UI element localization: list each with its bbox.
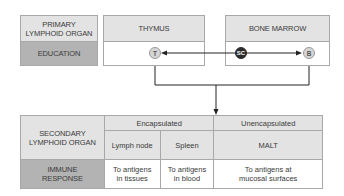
stem-cell-icon: SC: [235, 47, 247, 59]
lymph-node-cell: Lymph node: [104, 131, 160, 160]
response-tissues: To antigens in tissues: [104, 160, 160, 189]
secondary-organ-table: SECONDARY LYMPHOID ORGAN Encapsulated Un…: [20, 115, 323, 189]
encapsulated-header: Encapsulated: [104, 116, 214, 131]
response-blood: To antigens in blood: [160, 160, 214, 189]
malt-cell: MALT: [214, 131, 323, 160]
b-cell-icon: B: [303, 47, 315, 59]
unencapsulated-header: Unencapsulated: [214, 116, 323, 131]
primary-label-block: PRIMARY LYMPHOID ORGAN EDUCATION: [20, 15, 98, 66]
spleen-cell: Spleen: [160, 131, 214, 160]
t-cell-icon: T: [149, 47, 161, 59]
immune-response-label: IMMUNE RESPONSE: [21, 160, 105, 189]
secondary-organ-header: SECONDARY LYMPHOID ORGAN: [21, 116, 105, 160]
response-mucosal: To antigens at mucosal surfaces: [214, 160, 323, 189]
primary-organ-header: PRIMARY LYMPHOID ORGAN: [21, 16, 97, 42]
thymus-header: THYMUS: [104, 16, 204, 42]
bone-marrow-header: BONE MARROW: [226, 16, 329, 42]
education-label: EDUCATION: [21, 42, 97, 65]
